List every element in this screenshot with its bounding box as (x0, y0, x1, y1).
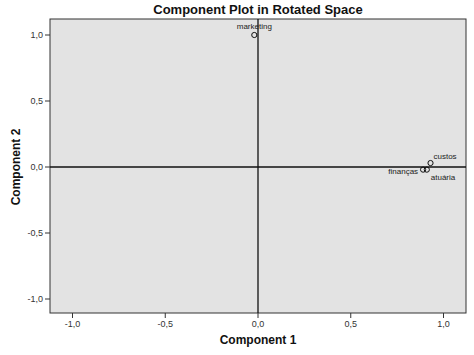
data-point-label: atuária (431, 173, 456, 182)
y-tick-label: 0,0 (30, 162, 43, 172)
x-axis-label: Component 1 (220, 333, 297, 347)
y-axis-ticks: 1,00,50,0-0,5-1,0 (27, 30, 50, 304)
y-tick-label: -1,0 (27, 294, 43, 304)
x-axis-ticks: -1,0-0,50,00,51,0 (65, 313, 450, 329)
x-tick-label: 1,0 (437, 319, 450, 329)
data-point-label: marketing (237, 22, 272, 31)
chart-title: Component Plot in Rotated Space (153, 2, 362, 17)
data-point-label: finanças (388, 167, 418, 176)
x-tick-label: -1,0 (65, 319, 81, 329)
x-tick-label: 0,0 (252, 319, 265, 329)
component-plot: Component Plot in Rotated Space -1,0-0,5… (0, 0, 474, 355)
x-tick-label: -0,5 (157, 319, 173, 329)
y-axis-label: Component 2 (9, 128, 23, 205)
y-tick-label: -0,5 (27, 228, 43, 238)
y-tick-label: 1,0 (30, 30, 43, 40)
y-tick-label: 0,5 (30, 96, 43, 106)
x-tick-label: 0,5 (344, 319, 357, 329)
data-point-label: custos (434, 152, 457, 161)
